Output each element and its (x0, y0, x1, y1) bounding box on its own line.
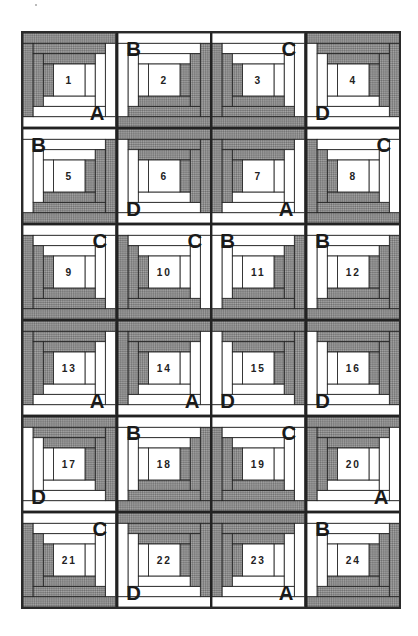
quilt-block: 3C (212, 33, 305, 127)
block-number: 15 (251, 363, 266, 374)
quilt-block: 18B (118, 417, 211, 511)
orientation-label: D (126, 197, 141, 220)
quilt-block: 12B (307, 225, 400, 319)
block-number: 14 (156, 363, 171, 374)
quilt-block: 1A (23, 33, 116, 127)
block-number: 3 (254, 75, 262, 86)
orientation-label: C (281, 420, 296, 443)
quilt-block: 6D (118, 129, 211, 223)
quilt-grid: 1A2B3C4D5B6D7A8C9C10C11B12B13A14A15D16D1… (23, 33, 399, 607)
quilt-block: 13A (23, 321, 116, 415)
block-number: 24 (345, 555, 360, 566)
block-number: 16 (345, 363, 360, 374)
block-number: 19 (251, 459, 266, 470)
block-number: 1 (65, 75, 73, 86)
orientation-label: C (376, 132, 391, 155)
quilt-block: 16D (307, 321, 400, 415)
orientation-label: A (90, 101, 105, 124)
quilt-block: 23A (212, 513, 305, 607)
quilt-block: 22D (118, 513, 211, 607)
orientation-label: D (126, 581, 141, 604)
orientation-label: B (31, 132, 46, 155)
block-number: 2 (160, 75, 168, 86)
orientation-label: A (90, 389, 105, 412)
stray-mark (35, 4, 37, 6)
quilt-block: 19C (212, 417, 305, 511)
quilt-block: 8C (307, 129, 400, 223)
quilt-block: 10C (118, 225, 211, 319)
block-number: 11 (251, 267, 265, 278)
orientation-label: C (281, 36, 296, 59)
block-number: 20 (345, 459, 360, 470)
block-number: 5 (65, 171, 73, 182)
orientation-label: B (315, 228, 330, 251)
block-number: 17 (62, 459, 77, 470)
orientation-label: B (126, 420, 141, 443)
quilt-block: 15D (212, 321, 305, 415)
quilt-block: 11B (212, 225, 305, 319)
quilt-block: 17D (23, 417, 116, 511)
orientation-label: B (315, 516, 330, 539)
quilt-diagram: 1A2B3C4D5B6D7A8C9C10C11B12B13A14A15D16D1… (21, 31, 401, 609)
block-number: 13 (62, 363, 77, 374)
orientation-label: A (279, 581, 294, 604)
orientation-label: C (92, 228, 107, 251)
block-number: 23 (251, 555, 266, 566)
orientation-label: A (279, 197, 294, 220)
orientation-label: C (92, 516, 107, 539)
quilt-block: 21C (23, 513, 116, 607)
block-number: 9 (65, 267, 73, 278)
block-number: 21 (62, 555, 77, 566)
quilt-block: 9C (23, 225, 116, 319)
quilt-block: 7A (212, 129, 305, 223)
block-number: 4 (349, 75, 357, 86)
block-number: 12 (345, 267, 360, 278)
block-number: 8 (349, 171, 357, 182)
orientation-label: C (187, 228, 202, 251)
quilt-block: 14A (118, 321, 211, 415)
quilt-block: 20A (307, 417, 400, 511)
quilt-block: 24B (307, 513, 400, 607)
block-number: 22 (156, 555, 171, 566)
orientation-label: D (220, 389, 235, 412)
block-number: 6 (160, 171, 168, 182)
orientation-label: B (126, 36, 141, 59)
quilt-block: 5B (23, 129, 116, 223)
orientation-label: D (315, 389, 330, 412)
orientation-label: A (184, 389, 199, 412)
orientation-label: A (373, 485, 388, 508)
quilt-block: 4D (307, 33, 400, 127)
quilt-block: 2B (118, 33, 211, 127)
block-number: 18 (156, 459, 171, 470)
orientation-label: D (315, 101, 330, 124)
block-number: 7 (254, 171, 262, 182)
orientation-label: B (220, 228, 235, 251)
orientation-label: D (31, 485, 46, 508)
block-number: 10 (156, 267, 171, 278)
